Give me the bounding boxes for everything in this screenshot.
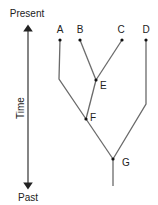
node-dot <box>144 38 147 41</box>
tip-label: B <box>77 24 84 35</box>
axis-label: Time <box>15 97 26 119</box>
tip-node-b: B <box>77 24 84 42</box>
edge-d-g <box>113 40 146 159</box>
node-dot <box>111 157 114 160</box>
internal-node-e: E <box>94 78 107 91</box>
tip-node-c: C <box>117 24 124 42</box>
node-dot <box>84 117 87 120</box>
internal-node-f: F <box>84 112 96 123</box>
axis-top-label: Present <box>10 8 45 19</box>
node-label: E <box>100 80 107 91</box>
edge-a-f <box>59 40 86 119</box>
node-dot <box>94 78 97 81</box>
axis-bottom-label: Past <box>18 192 38 203</box>
edge-f-g <box>86 119 113 159</box>
tip-label: C <box>117 24 124 35</box>
edge-c-e <box>96 40 122 80</box>
node-label: F <box>90 112 96 123</box>
tip-node-a: A <box>57 24 64 42</box>
node-dot <box>78 38 81 41</box>
phylogenetic-tree-diagram: Present Time Past A B C D E F G <box>0 0 158 205</box>
node-dot <box>120 38 123 41</box>
node-dot <box>58 38 61 41</box>
tip-node-d: D <box>142 24 149 42</box>
edge-b-e <box>80 40 96 80</box>
tip-label: A <box>57 24 64 35</box>
tip-label: D <box>142 24 149 35</box>
internal-node-g: G <box>111 157 130 168</box>
node-label: G <box>122 157 130 168</box>
